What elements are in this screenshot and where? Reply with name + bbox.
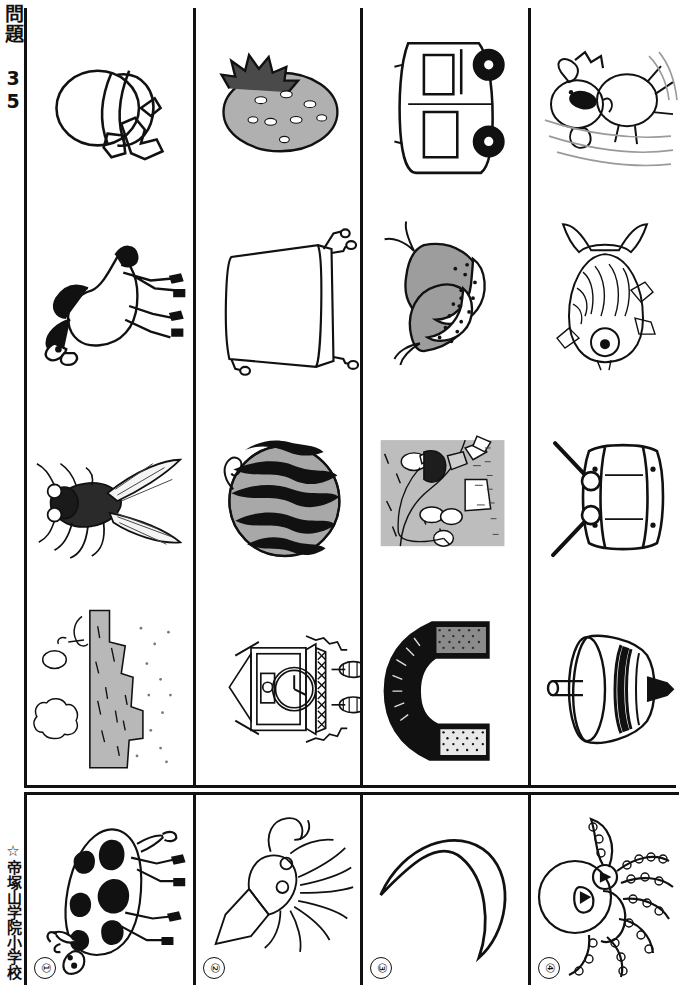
- grid-cell-horse[interactable]: [27, 202, 196, 396]
- left-gutter: 問題 35 ☆帝塚山学院小学校: [0, 0, 24, 984]
- squid-icon: [196, 795, 360, 985]
- answer-row: ①: [24, 792, 679, 985]
- grid-separator: [24, 785, 676, 788]
- cow-icon: [27, 795, 193, 985]
- grid-cell-cuckoo-clock[interactable]: [196, 591, 363, 785]
- grid-cell-mountain-cliff[interactable]: [27, 591, 196, 785]
- answer-number-1: ①: [34, 957, 56, 979]
- answer-cell-crescent-moon[interactable]: ③: [363, 795, 531, 985]
- strawberry-icon: [196, 8, 360, 202]
- answer-cell-squid[interactable]: ②: [196, 795, 363, 985]
- grid-cell-horseshoe-magnet[interactable]: [363, 591, 531, 785]
- grid-cell-fish[interactable]: [531, 202, 679, 396]
- grid-cell-drum[interactable]: [531, 397, 679, 591]
- watermelon-icon: [196, 397, 360, 591]
- grid-cell-running-dog[interactable]: [531, 8, 679, 202]
- grid-cell-car[interactable]: [363, 8, 531, 202]
- desk-icon: [196, 202, 360, 396]
- octopus-icon: [531, 795, 679, 985]
- page-title: 問題 35: [0, 4, 27, 113]
- mountain-cliff-icon: [27, 591, 193, 785]
- drum-icon: [531, 397, 679, 591]
- crescent-moon-icon: [363, 795, 528, 985]
- school-name: ☆帝塚山学院小学校: [3, 842, 24, 980]
- grid-cell-watermelon[interactable]: [196, 397, 363, 591]
- grid-cell-hat-with-ribbon[interactable]: [27, 8, 196, 202]
- fish-icon: [531, 202, 679, 396]
- horse-icon: [27, 202, 193, 396]
- car-icon: [363, 8, 528, 202]
- answer-cell-octopus[interactable]: ④: [531, 795, 679, 985]
- cicada-icon: [27, 397, 193, 591]
- grid-cell-desk[interactable]: [196, 202, 363, 396]
- grid-cell-cicada[interactable]: [27, 397, 196, 591]
- cherries-icon: [363, 202, 528, 396]
- horseshoe-magnet-icon: [363, 591, 528, 785]
- cuckoo-clock-icon: [196, 591, 360, 785]
- answer-cell-cow[interactable]: ①: [27, 795, 196, 985]
- fishing-scene-icon: [363, 397, 528, 591]
- grid-cell-cherries[interactable]: [363, 202, 531, 396]
- answer-number-4: ④: [538, 957, 560, 979]
- answer-number-2: ②: [203, 957, 225, 979]
- picture-grid: [24, 8, 679, 785]
- grid-cell-strawberry[interactable]: [196, 8, 363, 202]
- grid-cell-fishing-scene[interactable]: [363, 397, 531, 591]
- spinning-top-icon: [531, 591, 679, 785]
- running-dog-icon: [531, 8, 679, 202]
- hat-with-ribbon-icon: [27, 8, 193, 202]
- grid-cell-spinning-top[interactable]: [531, 591, 679, 785]
- answer-number-3: ③: [370, 957, 392, 979]
